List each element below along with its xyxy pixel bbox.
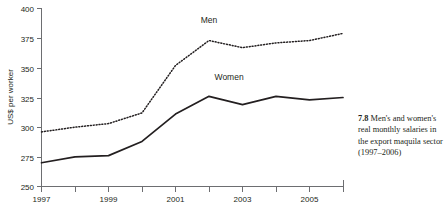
y-tick-label-325: 325 <box>21 95 35 104</box>
x-tick-label-1997: 1997 <box>33 195 51 204</box>
figure-caption-text: Men's and women's real monthly salaries … <box>358 114 443 157</box>
x-tick-label-2005: 2005 <box>301 195 319 204</box>
x-tick-label-2003: 2003 <box>234 195 252 204</box>
line-chart: 400 375 350 325 300 275 250 US$ per work… <box>0 0 350 217</box>
y-axis: 400 375 350 325 300 275 250 US$ per work… <box>6 5 42 192</box>
y-tick-label-275: 275 <box>21 154 35 163</box>
series-label-men: Men <box>201 15 218 25</box>
y-tick-label-350: 350 <box>21 65 35 74</box>
x-tick-label-2001: 2001 <box>167 195 185 204</box>
x-tick-label-1999: 1999 <box>100 195 118 204</box>
figure-container: 400 375 350 325 300 275 250 US$ per work… <box>0 0 445 217</box>
figure-caption-number: 7.8 <box>358 114 368 123</box>
y-tick-label-300: 300 <box>21 124 35 133</box>
y-tick-label-375: 375 <box>21 35 35 44</box>
plot-lines <box>42 33 344 162</box>
figure-caption: 7.8Men's and women's real monthly salari… <box>358 113 444 159</box>
series-line-men <box>42 33 344 131</box>
x-ticks <box>42 187 344 193</box>
series-label-women: Women <box>215 72 244 82</box>
x-axis: 1997 1999 2001 2003 2005 <box>33 180 344 204</box>
y-axis-title: US$ per worker <box>6 69 15 125</box>
y-ticks <box>37 9 42 187</box>
chart-svg: 400 375 350 325 300 275 250 US$ per work… <box>0 0 350 217</box>
y-tick-label-400: 400 <box>21 5 35 14</box>
y-tick-label-250: 250 <box>21 183 35 192</box>
series-line-women <box>42 96 344 162</box>
